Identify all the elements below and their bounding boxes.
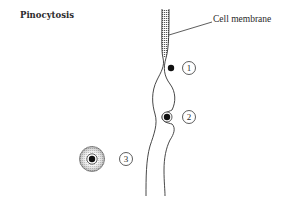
stage-2-marker: 2 (183, 111, 196, 124)
membrane-left-line (146, 9, 164, 196)
stage-1-marker: 1 (183, 62, 196, 75)
stage-1-number: 1 (187, 63, 192, 73)
membrane-stipple-band (162, 9, 169, 58)
pinocytosis-diagram: 1 2 3 (0, 0, 299, 205)
vesicle-stage-3 (80, 147, 105, 172)
membrane-leader-line (169, 22, 212, 35)
stage-3-number: 3 (124, 154, 129, 164)
particle-stage-1 (168, 65, 174, 71)
stage-3-marker: 3 (120, 153, 133, 166)
stage-2-number: 2 (187, 112, 192, 122)
particle-stage-2 (164, 114, 170, 120)
